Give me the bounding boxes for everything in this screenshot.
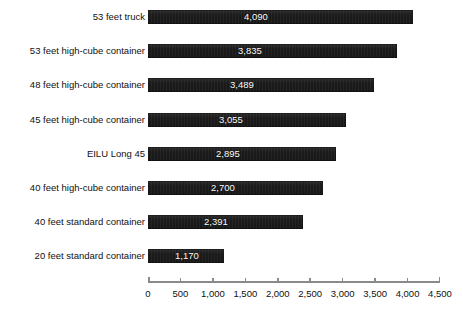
bar-value-label: 3,489: [230, 78, 254, 92]
bar-value-label: 3,055: [219, 113, 243, 127]
bar: [148, 113, 346, 127]
bar-value-label: 2,700: [211, 181, 235, 195]
bar-rows: 53 feet truck4,09053 feet high-cube cont…: [0, 0, 463, 272]
axis-tick: [148, 277, 150, 282]
category-label: EILU Long 45: [5, 146, 145, 161]
bar-row: 45 feet high-cube container3,055: [0, 113, 463, 127]
bar-row: 48 feet high-cube container3,489: [0, 78, 463, 92]
category-label: 48 feet high-cube container: [5, 77, 145, 92]
category-label: 20 feet standard container: [5, 248, 145, 263]
bar-track: 3,835: [148, 44, 448, 58]
bar-row: 53 feet high-cube container3,835: [0, 44, 463, 58]
axis-tick-label: 4,500: [428, 288, 452, 300]
axis-tick: [407, 278, 409, 282]
bar-track: 4,090: [148, 10, 448, 24]
bar-track: 3,055: [148, 113, 448, 127]
bar-track: 3,489: [148, 78, 448, 92]
bar: [148, 147, 336, 161]
bar-value-label: 2,895: [216, 147, 240, 161]
axis-tick: [374, 278, 376, 282]
bar-track: 2,700: [148, 181, 448, 195]
axis-tick-label: 1,000: [201, 288, 225, 300]
axis-tick-label: 500: [173, 288, 189, 300]
axis-tick: [277, 278, 279, 282]
bar: [148, 44, 397, 58]
axis-tick: [212, 278, 214, 282]
axis-tick-label: 2,000: [266, 288, 290, 300]
category-label: 45 feet high-cube container: [5, 112, 145, 127]
axis-tick-label: 0: [145, 288, 150, 300]
x-axis: 05001,0001,5002,0002,5003,0003,5004,0004…: [148, 281, 440, 309]
bar-value-label: 4,090: [244, 10, 268, 24]
axis-tick-label: 3,500: [363, 288, 387, 300]
axis-tick-label: 1,500: [233, 288, 257, 300]
axis-line: [148, 281, 440, 283]
bar-value-label: 2,391: [204, 215, 228, 229]
bar-track: 2,895: [148, 147, 448, 161]
axis-tick-label: 4,000: [396, 288, 420, 300]
axis-tick: [342, 278, 344, 282]
bar-track: 1,170: [148, 249, 448, 263]
bar-row: EILU Long 452,895: [0, 147, 463, 161]
category-label: 53 feet high-cube container: [5, 43, 145, 58]
axis-tick: [245, 278, 247, 282]
bar-chart: 53 feet truck4,09053 feet high-cube cont…: [0, 0, 463, 309]
axis-tick: [180, 278, 182, 282]
bar-row: 40 feet high-cube container2,700: [0, 181, 463, 195]
bar-row: 20 feet standard container1,170: [0, 249, 463, 263]
axis-tick: [309, 278, 311, 282]
axis-tick-label: 3,000: [331, 288, 355, 300]
bar-row: 40 feet standard container2,391: [0, 215, 463, 229]
bar-track: 2,391: [148, 215, 448, 229]
axis-tick-label: 2,500: [298, 288, 322, 300]
bar: [148, 181, 323, 195]
bar: [148, 78, 374, 92]
bar: [148, 10, 413, 24]
category-label: 40 feet high-cube container: [5, 180, 145, 195]
category-label: 53 feet truck: [5, 9, 145, 24]
bar-value-label: 3,835: [238, 44, 262, 58]
bar-row: 53 feet truck4,090: [0, 10, 463, 24]
axis-tick: [439, 277, 441, 282]
bar-value-label: 1,170: [175, 249, 199, 263]
category-label: 40 feet standard container: [5, 214, 145, 229]
